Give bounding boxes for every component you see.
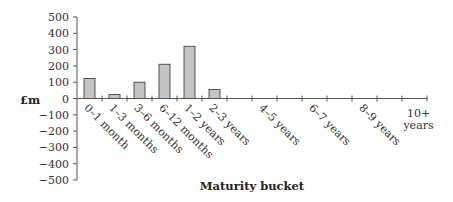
- bar: [134, 82, 145, 98]
- x-tick-label: 8–9 years: [356, 101, 403, 148]
- y-axis: 5004003002001000−100−200−300−400−500: [39, 11, 77, 187]
- x-tick-label: 4–5 years: [256, 101, 303, 148]
- x-tick-label: 6–7 years: [306, 101, 353, 148]
- y-tick-label: 300: [48, 44, 69, 57]
- y-tick-label: −400: [39, 158, 69, 171]
- bar-chart: 5004003002001000−100−200−300−400−500 0–1…: [0, 0, 453, 202]
- y-tick-label: 0: [62, 93, 69, 106]
- bar: [184, 46, 195, 98]
- y-tick-label: 100: [48, 76, 69, 89]
- y-tick-label: −100: [39, 109, 69, 122]
- y-tick-label: 400: [48, 27, 69, 40]
- bar: [159, 64, 170, 98]
- y-tick-label: 200: [48, 60, 69, 73]
- x-axis-title: Maturity bucket: [200, 179, 305, 193]
- x-axis: 0–1 month1–3 months3–6 months6–12 months…: [77, 96, 434, 162]
- bars: [84, 46, 220, 98]
- bar: [209, 90, 220, 99]
- y-tick-label: −500: [39, 174, 69, 187]
- x-tick-label: 10+years: [402, 107, 434, 132]
- y-axis-title: £m: [20, 93, 40, 107]
- y-tick-label: 500: [48, 11, 69, 24]
- bar: [109, 94, 120, 98]
- y-tick-label: −200: [39, 125, 69, 138]
- y-tick-label: −300: [39, 141, 69, 154]
- bar: [84, 78, 95, 98]
